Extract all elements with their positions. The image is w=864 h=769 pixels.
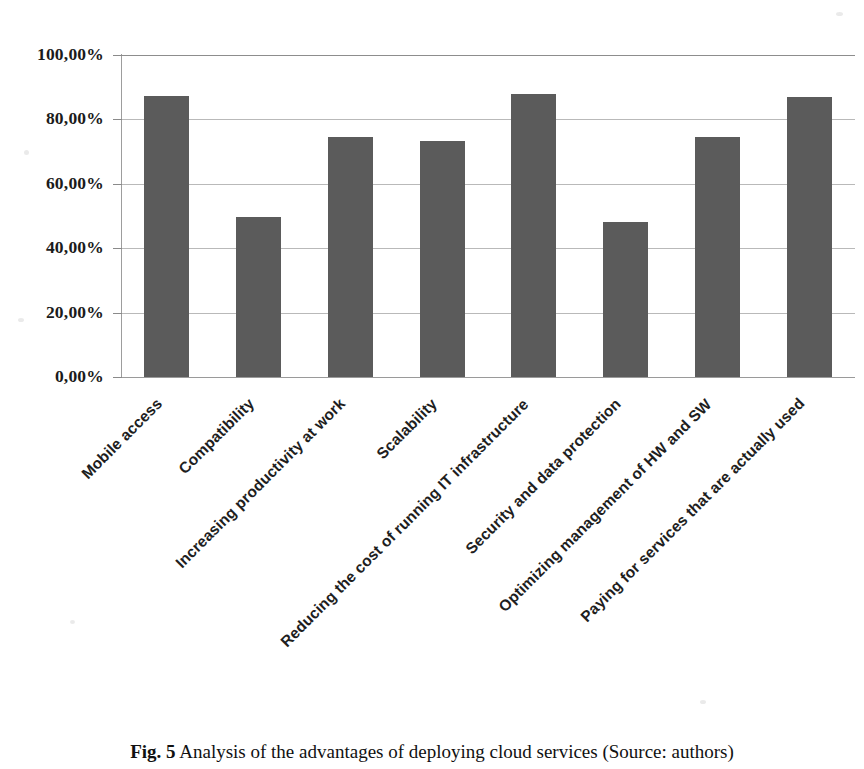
figure-number: Fig. 5 bbox=[130, 741, 175, 762]
x-axis-label: Increasing productivity at work bbox=[172, 395, 349, 572]
bar[interactable] bbox=[236, 217, 281, 377]
scan-speckle bbox=[70, 620, 75, 624]
bar[interactable] bbox=[603, 222, 648, 377]
y-tick-0 bbox=[113, 377, 122, 378]
y-axis-label: 20,00% bbox=[0, 302, 104, 323]
gridline-0 bbox=[121, 377, 855, 378]
scan-speckle bbox=[24, 150, 29, 155]
bar[interactable] bbox=[420, 141, 465, 377]
scan-speckle bbox=[700, 700, 706, 704]
x-axis-label: Mobile access bbox=[78, 395, 166, 483]
bar[interactable] bbox=[695, 137, 740, 377]
figure-container: 100,00%80,00%60,00%40,00%20,00%0,00% Mob… bbox=[0, 0, 864, 769]
y-axis-label: 60,00% bbox=[0, 173, 104, 194]
x-axis-label: Security and data protection bbox=[462, 395, 625, 558]
bar[interactable] bbox=[787, 97, 832, 377]
y-axis-label: 0,00% bbox=[0, 366, 104, 387]
y-axis-label: 80,00% bbox=[0, 108, 104, 129]
x-axis-label: Scalability bbox=[373, 395, 441, 463]
figure-caption-text: Analysis of the advantages of deploying … bbox=[179, 741, 734, 762]
plot-area bbox=[121, 55, 855, 377]
bar[interactable] bbox=[511, 94, 556, 377]
scan-speckle bbox=[836, 12, 843, 16]
bar[interactable] bbox=[328, 137, 373, 377]
x-axis-label: Compatibility bbox=[175, 395, 258, 478]
y-axis-label: 100,00% bbox=[0, 44, 104, 65]
y-axis-label: 40,00% bbox=[0, 237, 104, 258]
bar[interactable] bbox=[144, 96, 189, 377]
figure-caption: Fig. 5 Analysis of the advantages of dep… bbox=[0, 741, 864, 763]
